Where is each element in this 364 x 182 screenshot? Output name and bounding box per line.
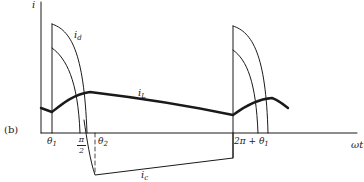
pi-over-2-tick-label: π 2 <box>77 136 86 155</box>
two-pi-plus-theta1-tick-label: 2π + θ1 <box>234 137 269 148</box>
id-inner-arc-1 <box>52 48 80 133</box>
two-pi-plus-theta1-main: 2π + θ <box>234 136 264 146</box>
ic-label: ic <box>141 170 148 182</box>
ic-label-sub: c <box>144 174 148 182</box>
pi-numerator: π <box>79 135 84 144</box>
y-axis-label: i <box>32 0 35 10</box>
iL-label-sub: L <box>141 92 146 100</box>
two-pi-plus-theta1-sub: 1 <box>264 140 268 148</box>
theta1-tick-label: θ1 <box>47 137 57 148</box>
pi-denominator: 2 <box>79 146 84 155</box>
id-inner-arc-2 <box>233 50 258 133</box>
id-outer-arc-2 <box>233 26 268 133</box>
id-label-sub: d <box>77 34 81 42</box>
theta2-sub: 2 <box>103 140 107 148</box>
x-axis-label: ωt <box>351 140 363 150</box>
panel-label: (b) <box>4 125 18 135</box>
id-label: id <box>74 30 82 42</box>
theta2-tick-label: θ2 <box>98 137 108 148</box>
iL-label: iL <box>138 88 146 100</box>
theta1-sub: 1 <box>52 140 56 148</box>
waveform-diagram <box>0 0 364 182</box>
